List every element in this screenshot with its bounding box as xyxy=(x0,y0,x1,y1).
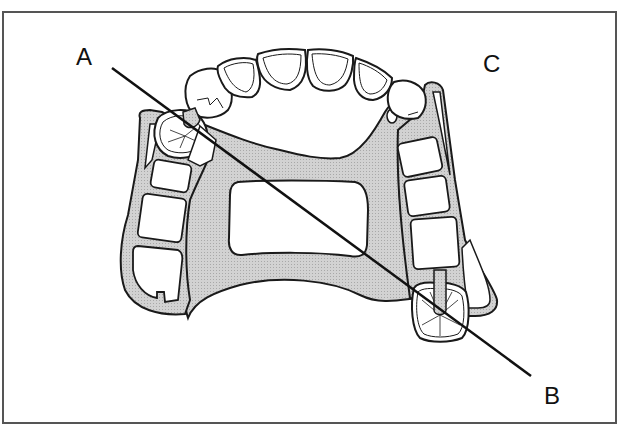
tooth-arch xyxy=(185,49,425,119)
denture-diagram xyxy=(0,0,622,428)
canine-right xyxy=(388,80,426,118)
label-b: B xyxy=(544,384,560,408)
label-a: A xyxy=(76,45,92,69)
central-incisor-left xyxy=(257,49,306,90)
label-c: C xyxy=(483,52,500,76)
